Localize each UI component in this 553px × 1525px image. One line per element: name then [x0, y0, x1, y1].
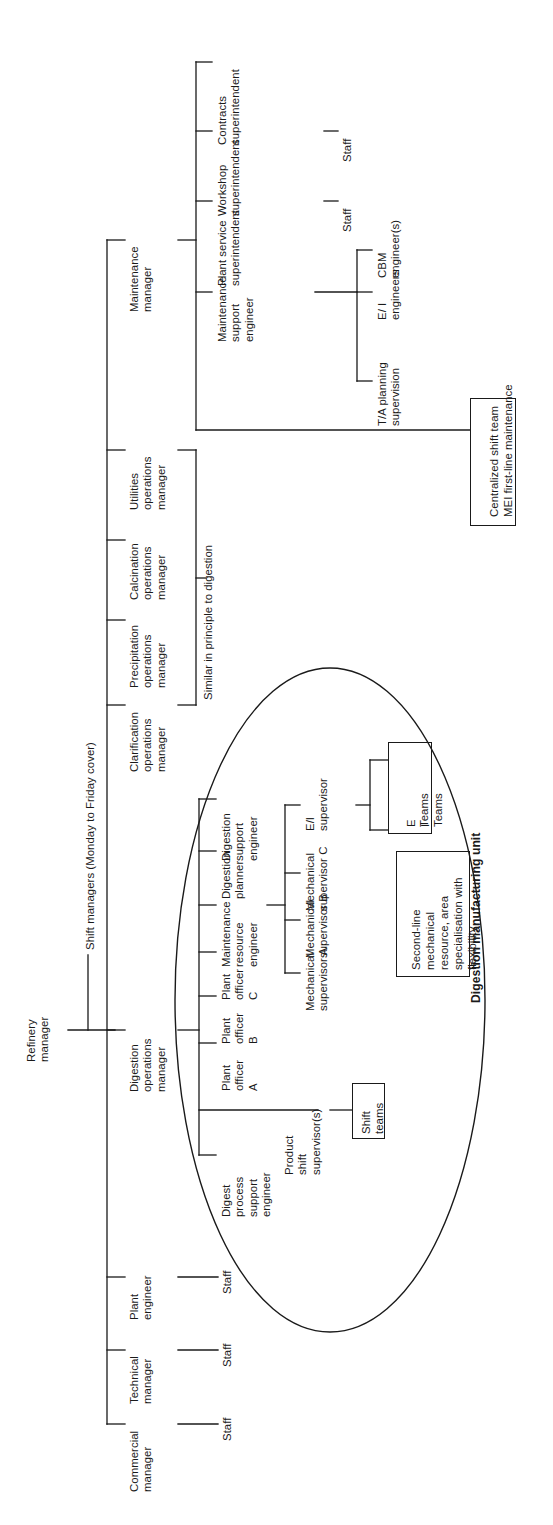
workshop-superintendent[interactable]: Workshop superintendent [216, 140, 243, 216]
digestion-operations-manager[interactable]: Digestion operations manager [128, 1038, 168, 1092]
workshop-staff-label: Staff [341, 139, 354, 162]
shift-managers-note: Shift managers (Monday to Friday cover) [84, 742, 97, 950]
centralized-shift-team-box: Centralized shift team MEI first-line ma… [470, 398, 516, 526]
shift-teams-text: Shift teams [360, 1103, 386, 1134]
maintenance-support-engineer[interactable]: Maintenance support engineer [216, 276, 256, 342]
org-chart-canvas: Centralized shift team MEI first-line ma… [0, 0, 553, 1525]
digestion-planner[interactable]: Digestion planner [220, 851, 247, 899]
commercial-manager[interactable]: Commercial manager [128, 1431, 155, 1492]
plant-officer-c[interactable]: Plant officer C [220, 969, 260, 1000]
connector-lines [0, 0, 553, 1525]
maintenance-resource-engineer[interactable]: Maintenance resource engineer [220, 901, 260, 967]
clarification-operations-manager[interactable]: Clarification operations manager [128, 712, 168, 772]
maintenance-manager[interactable]: Maintenance manager [128, 246, 155, 312]
shift-teams-box: Shift teams [352, 1083, 385, 1139]
mechanical-supervisor-a[interactable]: Mechanical supervisor A [304, 948, 331, 1011]
plant-engineer[interactable]: Plant engineer [128, 1275, 155, 1320]
plant-service-staff-label: Staff [341, 209, 354, 232]
plant-service-superintendent[interactable]: Plant service superintendent [216, 210, 243, 286]
plant-officer-b[interactable]: Plant officer B [220, 1013, 260, 1044]
plant-officer-a[interactable]: Plant officer A [220, 1060, 260, 1091]
digest-process-support-engineer[interactable]: Digest process support engineer [220, 1172, 274, 1217]
contracts-superintendent[interactable]: Contracts superintendent [216, 69, 243, 145]
centralized-shift-team-line2: MEI first-line maintenance [502, 384, 515, 517]
calcination-operations-manager[interactable]: Calcination operations manager [128, 543, 168, 600]
ta-planning-supervision[interactable]: T/A planning supervision [376, 362, 403, 426]
second-line-mechanical-box: Second-line mechanical resource, area sp… [396, 851, 470, 977]
digestion-unit-ellipse-overlay [0, 0, 553, 1525]
ei-supervisor[interactable]: E/I supervisor [304, 778, 331, 831]
similar-in-principle-note: Similar in principle to digestion [202, 545, 215, 700]
plant-engineer-staff-label: Staff [221, 1271, 234, 1294]
i-teams-label: I Teams [419, 793, 445, 827]
ei-engineers[interactable]: E/ I engineers [376, 270, 403, 320]
product-shift-supervisor[interactable]: Product shift supervisor(s) [283, 1109, 323, 1175]
centralized-shift-team-line1: Centralized shift team [488, 406, 501, 517]
refinery-manager[interactable]: Refinery manager [25, 1017, 52, 1062]
commercial-manager-staff-label: Staff [221, 1418, 234, 1441]
utilities-operations-manager[interactable]: Utilities operations manager [128, 456, 168, 510]
technical-manager[interactable]: Technical manager [128, 1356, 155, 1404]
precipitation-operations-manager[interactable]: Precipitation operations manager [128, 625, 168, 688]
technical-manager-staff-label: Staff [221, 1344, 234, 1367]
e-i-teams-box: E Teams I Teams [388, 742, 432, 834]
digestion-manufacturing-unit-label: Digestion manufacturing unit [470, 833, 483, 1003]
